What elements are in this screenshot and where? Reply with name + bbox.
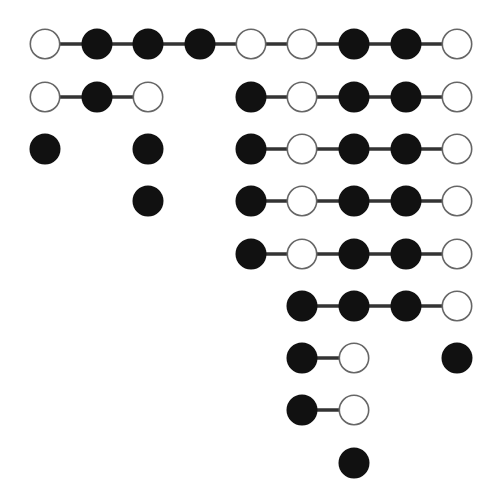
filled-node [339, 186, 370, 217]
filled-node [287, 395, 318, 426]
hollow-node [442, 239, 471, 268]
hollow-node [287, 134, 316, 163]
node-chain [133, 134, 164, 165]
hollow-node [287, 239, 316, 268]
node-chain [236, 239, 472, 270]
node-chain [236, 82, 472, 113]
hollow-node [30, 29, 59, 58]
node-chain [30, 29, 471, 60]
hollow-node [442, 186, 471, 215]
node-chain [236, 186, 472, 217]
node-chain-diagram [0, 0, 503, 504]
hollow-node [287, 29, 316, 58]
filled-node [391, 29, 422, 60]
filled-node [236, 82, 267, 113]
filled-node [391, 239, 422, 270]
filled-node [287, 343, 318, 374]
filled-node [236, 239, 267, 270]
filled-node [236, 134, 267, 165]
hollow-node [287, 82, 316, 111]
filled-node [391, 186, 422, 217]
filled-node [442, 343, 473, 374]
filled-node [30, 134, 61, 165]
node-chain [133, 186, 164, 217]
filled-node [339, 239, 370, 270]
filled-node [236, 186, 267, 217]
diagram-canvas [0, 0, 503, 504]
filled-node [339, 291, 370, 322]
hollow-node [236, 29, 265, 58]
hollow-node [442, 291, 471, 320]
hollow-node [442, 82, 471, 111]
filled-node [82, 29, 113, 60]
hollow-node [442, 134, 471, 163]
node-chain [236, 134, 472, 165]
filled-node [339, 82, 370, 113]
hollow-node [339, 395, 368, 424]
filled-node [339, 134, 370, 165]
filled-node [133, 186, 164, 217]
hollow-node [442, 29, 471, 58]
node-chain [442, 343, 473, 374]
node-chain [30, 134, 61, 165]
filled-node [133, 134, 164, 165]
filled-node [339, 448, 370, 479]
hollow-node [30, 82, 59, 111]
filled-node [185, 29, 216, 60]
node-chain [339, 448, 370, 479]
filled-node [82, 82, 113, 113]
filled-node [287, 291, 318, 322]
hollow-node [133, 82, 162, 111]
hollow-node [339, 343, 368, 372]
filled-node [391, 82, 422, 113]
filled-node [391, 134, 422, 165]
node-chain [287, 291, 472, 322]
filled-node [133, 29, 164, 60]
node-chain [287, 343, 369, 374]
node-chain [287, 395, 369, 426]
filled-node [391, 291, 422, 322]
hollow-node [287, 186, 316, 215]
node-chain [30, 82, 162, 113]
filled-node [339, 29, 370, 60]
